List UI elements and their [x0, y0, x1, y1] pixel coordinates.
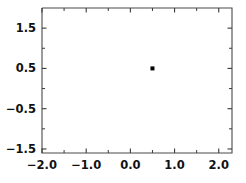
y-tick-label: −0.5 [6, 102, 36, 116]
x-tick-label: −1.0 [71, 158, 101, 172]
y-tick-label: −1.5 [6, 142, 36, 156]
x-axis-tick-labels: −2.0−1.00.01.02.0 [27, 158, 229, 172]
source-point-marker [150, 66, 154, 70]
x-tick-label: 0.0 [120, 158, 140, 172]
figure-canvas: −2.0−1.00.01.02.0 1.50.5−0.5−1.5 [0, 0, 246, 183]
x-tick-label: 2.0 [209, 158, 229, 172]
x-tick-label: −2.0 [27, 158, 57, 172]
x-tick-label: 1.0 [164, 158, 184, 172]
y-tick-label: 1.5 [16, 21, 36, 35]
y-tick-label: 0.5 [16, 61, 36, 75]
y-axis-tick-labels: 1.50.5−0.5−1.5 [6, 21, 36, 156]
chart-plot: −2.0−1.00.01.02.0 1.50.5−0.5−1.5 [0, 0, 246, 183]
plot-background [42, 8, 232, 153]
